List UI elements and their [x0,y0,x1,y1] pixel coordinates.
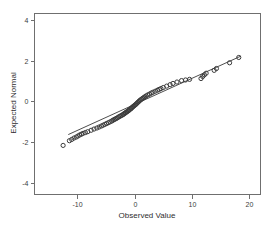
qq-plot-container: -1001020 420-2-4 Observed Value Expected… [0,0,271,230]
data-point [179,78,183,82]
x-tick-label: 0 [134,201,138,208]
y-tick-label: -4 [22,180,28,187]
x-tick-label: 20 [246,201,254,208]
reference-line [68,56,241,135]
data-points [61,55,241,147]
normal-reference-line [68,56,241,135]
y-tick-label: 0 [25,98,29,105]
y-tick-label: -2 [22,139,28,146]
y-tick-label: 4 [25,17,29,24]
qq-plot-svg: -1001020 420-2-4 Observed Value Expected… [0,0,271,230]
x-axis-ticks: -1001020 [72,195,253,208]
y-axis-title: Expected Normal [9,72,18,134]
x-axis-title: Observed Value [119,211,176,220]
y-tick-label: 2 [25,58,29,65]
plot-frame [35,14,261,195]
x-tick-label: -10 [72,201,82,208]
plot-border [35,14,261,195]
data-point [175,80,179,84]
data-point [61,143,65,147]
y-axis-ticks: 420-2-4 [22,17,34,187]
x-tick-label: 10 [189,201,197,208]
